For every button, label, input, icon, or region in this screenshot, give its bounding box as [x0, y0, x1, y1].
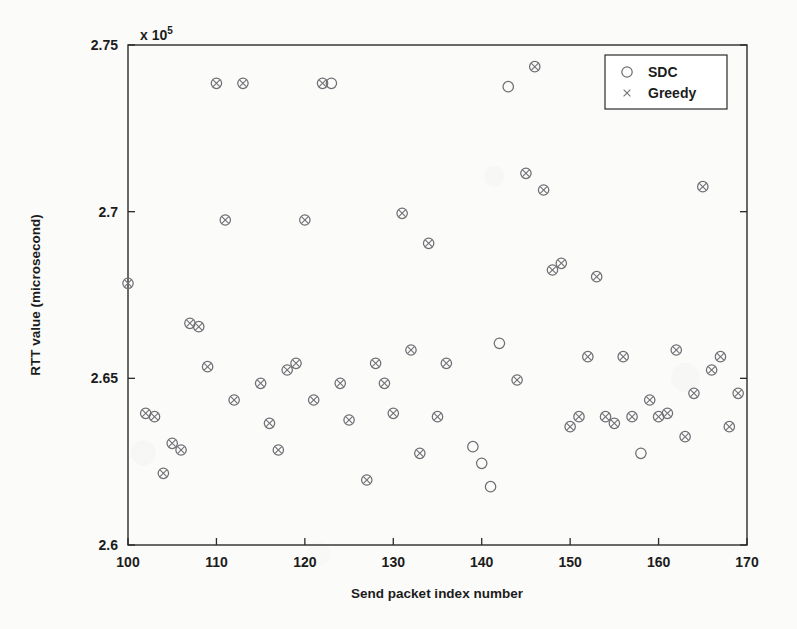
data-point-greedy — [346, 417, 353, 424]
y-tick-label: 2.65 — [91, 370, 118, 386]
y-tick-label: 2.7 — [99, 204, 119, 220]
y-axis-ticks: 2.62.652.72.75 — [91, 37, 747, 553]
exponent-prefix: x 10 — [140, 27, 167, 43]
data-point-greedy — [708, 367, 715, 374]
data-point-greedy — [664, 410, 671, 417]
x-tick-label: 110 — [205, 554, 228, 570]
data-point-greedy — [275, 447, 282, 454]
series-sdc-markers — [123, 61, 744, 491]
data-point-greedy — [629, 413, 636, 420]
exponent-power: 5 — [167, 25, 173, 36]
x-tick-label: 170 — [735, 554, 759, 570]
data-point-greedy — [390, 410, 397, 417]
data-point-greedy — [673, 347, 680, 354]
data-point-greedy — [160, 470, 167, 477]
y-tick-label: 2.6 — [99, 537, 119, 553]
data-point-greedy — [266, 420, 273, 427]
x-axis-label: Send packet index number — [351, 586, 524, 601]
data-point-greedy — [646, 397, 653, 404]
data-point-greedy — [204, 363, 211, 370]
data-point-greedy — [231, 397, 238, 404]
data-point-greedy — [213, 80, 220, 87]
legend: SDC Greedy — [605, 55, 727, 109]
data-point-greedy — [310, 397, 317, 404]
data-point-greedy — [443, 360, 450, 367]
data-point-sdc — [485, 481, 495, 491]
data-point-greedy — [567, 423, 574, 430]
data-point-greedy — [549, 267, 556, 274]
data-point-greedy — [540, 187, 547, 194]
data-point-greedy — [576, 413, 583, 420]
data-point-greedy — [514, 377, 521, 384]
data-point-greedy — [222, 217, 229, 224]
data-point-greedy — [178, 447, 185, 454]
x-tick-label: 150 — [558, 554, 582, 570]
data-point-greedy — [531, 63, 538, 70]
y-axis-exponent: x 105 — [140, 25, 173, 43]
data-point-greedy — [195, 323, 202, 330]
data-point-greedy — [425, 240, 432, 247]
data-point-greedy — [293, 360, 300, 367]
data-point-greedy — [372, 360, 379, 367]
data-point-greedy — [408, 347, 415, 354]
data-point-greedy — [602, 413, 609, 420]
data-point-sdc — [468, 441, 478, 451]
data-point-greedy — [434, 413, 441, 420]
x-axis-ticks: 100110120130140150160170 — [116, 538, 759, 570]
data-point-greedy — [257, 380, 264, 387]
y-tick-label: 2.75 — [91, 37, 118, 53]
data-point-greedy — [284, 367, 291, 374]
data-point-greedy — [363, 477, 370, 484]
data-point-greedy — [558, 260, 565, 267]
x-tick-label: 160 — [647, 554, 671, 570]
data-point-greedy — [240, 80, 247, 87]
plot-frame — [128, 45, 747, 545]
x-tick-label: 120 — [293, 554, 317, 570]
data-point-greedy — [593, 273, 600, 280]
data-point-greedy — [399, 210, 406, 217]
data-point-greedy — [699, 183, 706, 190]
data-point-greedy — [337, 380, 344, 387]
data-point-greedy — [691, 390, 698, 397]
data-point-greedy — [301, 217, 308, 224]
data-point-greedy — [717, 353, 724, 360]
data-point-greedy — [620, 353, 627, 360]
data-point-sdc — [636, 448, 646, 458]
y-axis-label: RTT value (microsecond) — [28, 214, 43, 375]
data-point-greedy — [187, 320, 194, 327]
data-point-greedy — [726, 423, 733, 430]
data-point-greedy — [584, 353, 591, 360]
x-tick-label: 140 — [470, 554, 494, 570]
data-point-greedy — [682, 433, 689, 440]
data-point-sdc — [503, 81, 513, 91]
legend-label-greedy: Greedy — [648, 85, 696, 101]
x-tick-label: 100 — [116, 554, 140, 570]
data-point-greedy — [416, 450, 423, 457]
data-point-sdc — [477, 458, 487, 468]
scatter-plot-figure: 100110120130140150160170 2.62.652.72.75 … — [0, 0, 797, 629]
data-point-greedy — [142, 410, 149, 417]
legend-label-sdc: SDC — [648, 64, 678, 80]
data-point-greedy — [655, 413, 662, 420]
data-point-greedy — [523, 170, 530, 177]
plot-canvas: 100110120130140150160170 2.62.652.72.75 … — [0, 0, 797, 629]
x-tick-label: 130 — [382, 554, 406, 570]
data-point-greedy — [151, 413, 158, 420]
data-point-greedy — [319, 80, 326, 87]
data-point-sdc — [494, 338, 504, 348]
data-point-greedy — [611, 420, 618, 427]
data-point-greedy — [169, 440, 176, 447]
data-point-greedy — [735, 390, 742, 397]
data-point-greedy — [381, 380, 388, 387]
